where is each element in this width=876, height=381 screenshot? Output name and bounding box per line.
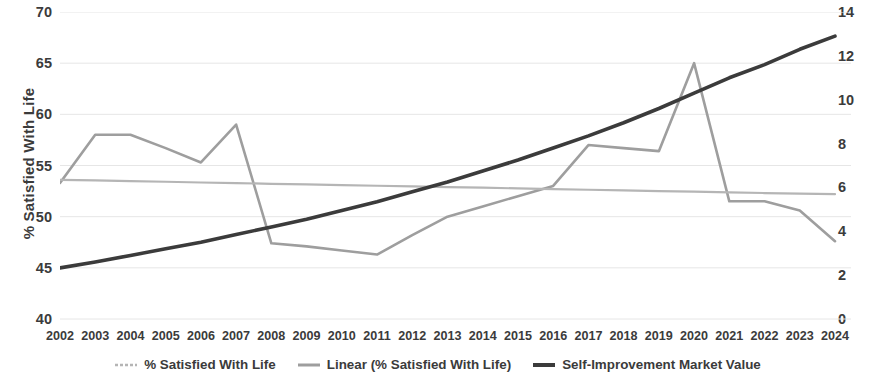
thick-line-swatch [533, 360, 555, 370]
x-axis-tick-2007: 2007 [222, 330, 250, 343]
x-axis-tick-2003: 2003 [81, 330, 109, 343]
x-axis-tick-2020: 2020 [680, 330, 708, 343]
y-axis-left-tick-45: 45 [22, 261, 52, 276]
legend-label: Self-Improvement Market Value [562, 357, 761, 372]
legend-label: Linear (% Satisfied With Life) [327, 357, 511, 372]
x-axis-tick-2017: 2017 [574, 330, 602, 343]
series-line-satisfied-with-life [60, 63, 835, 254]
x-axis-tick-2013: 2013 [433, 330, 461, 343]
x-axis-tick-2018: 2018 [610, 330, 638, 343]
y-axis-left-tick-60: 60 [22, 107, 52, 122]
dashed-line-swatch [115, 360, 137, 370]
x-axis-tick-2006: 2006 [187, 330, 215, 343]
legend-item-1[interactable]: % Satisfied With Life [115, 357, 276, 372]
x-axis-tick-2012: 2012 [398, 330, 426, 343]
x-axis-tick-2004: 2004 [116, 330, 144, 343]
x-axis-tick-2023: 2023 [786, 330, 814, 343]
y-axis-left-tick-55: 55 [22, 158, 52, 173]
y-axis-left-tick-50: 50 [22, 209, 52, 224]
x-axis-tick-2014: 2014 [469, 330, 497, 343]
y-axis-left-tick-65: 65 [22, 56, 52, 71]
x-axis-tick-2015: 2015 [504, 330, 532, 343]
x-axis-tick-2016: 2016 [539, 330, 567, 343]
x-axis-tick-2010: 2010 [328, 330, 356, 343]
y-axis-left-tick-70: 70 [22, 5, 52, 20]
x-axis-tick-2011: 2011 [363, 330, 390, 343]
chart-container: % Satisfied With Life 40455055606570 024… [0, 0, 876, 381]
legend-item-3[interactable]: Self-Improvement Market Value [533, 357, 761, 372]
x-axis-tick-2005: 2005 [152, 330, 180, 343]
x-axis-tick-2009: 2009 [293, 330, 321, 343]
legend-item-2[interactable]: Linear (% Satisfied With Life) [298, 357, 511, 372]
x-axis-tick-2022: 2022 [751, 330, 779, 343]
x-axis-tick-2002: 2002 [46, 330, 74, 343]
x-axis-tick-2019: 2019 [645, 330, 673, 343]
solid-line-swatch [298, 360, 320, 370]
plot-area [60, 12, 835, 319]
x-axis-tick-2021: 2021 [715, 330, 743, 343]
y-axis-left-tick-40: 40 [22, 312, 52, 327]
chart-legend: % Satisfied With LifeLinear (% Satisfied… [0, 357, 876, 372]
x-axis-tick-2024: 2024 [821, 330, 849, 343]
x-axis-tick-2008: 2008 [257, 330, 285, 343]
legend-label: % Satisfied With Life [144, 357, 276, 372]
